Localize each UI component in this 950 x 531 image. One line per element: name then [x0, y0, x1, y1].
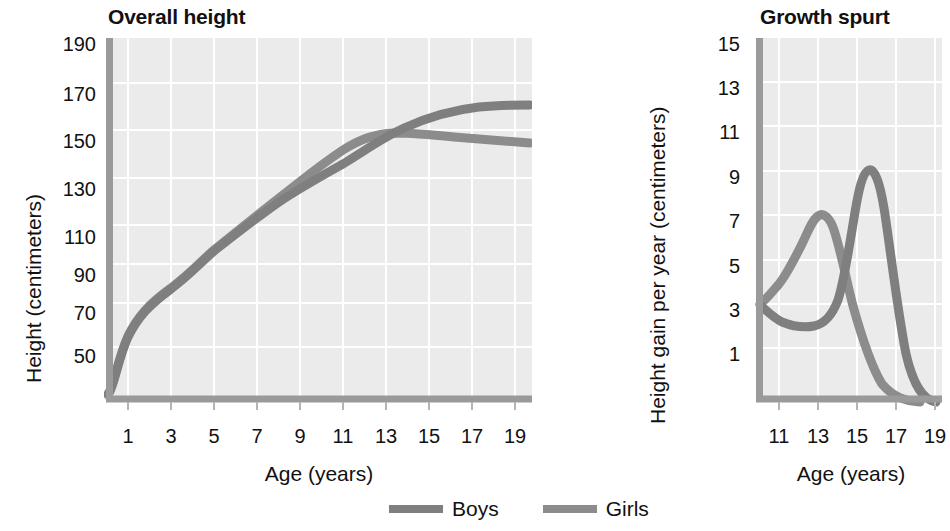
- panel-title-overall-height: Overall height: [108, 5, 245, 29]
- x-tick-label: 9: [280, 425, 320, 448]
- x-tick-label: 13: [366, 425, 406, 448]
- x-tick-label: 15: [837, 425, 877, 448]
- x-tick-label: 11: [323, 425, 363, 448]
- legend-item-boys: Boys: [389, 497, 499, 521]
- y-tick-label: 90: [26, 264, 96, 287]
- plot-area-growth-spurt: [754, 38, 942, 410]
- x-tick-label: 11: [759, 425, 799, 448]
- legend-swatch-boys: [389, 505, 443, 513]
- y-tick-label: 150: [26, 130, 96, 153]
- legend-swatch-girls: [543, 505, 597, 513]
- x-tick-label: 17: [876, 425, 916, 448]
- y-tick-label: 1: [696, 343, 740, 366]
- x-tick-label: 3: [151, 425, 191, 448]
- y-tick-label: 3: [696, 299, 740, 322]
- legend-label-girls: Girls: [606, 497, 649, 521]
- x-axis-label-right: Age (years): [756, 462, 946, 486]
- y-tick-label: 50: [26, 345, 96, 368]
- y-axis-label-right: Height gain per year (centimeters): [646, 107, 670, 424]
- y-tick-label: 11: [696, 121, 740, 144]
- y-tick-label: 7: [696, 210, 740, 233]
- y-tick-label: 130: [26, 178, 96, 201]
- legend-item-girls: Girls: [543, 497, 649, 521]
- x-tick-label: 7: [237, 425, 277, 448]
- y-tick-label: 5: [696, 255, 740, 278]
- x-tick-label: 19: [495, 425, 535, 448]
- x-tick-label: 15: [409, 425, 449, 448]
- x-tick-label: 17: [452, 425, 492, 448]
- x-tick-label: 5: [194, 425, 234, 448]
- x-axis-label-left: Age (years): [224, 462, 414, 486]
- legend: Boys Girls: [389, 497, 649, 521]
- plot-area-overall-height: [104, 38, 532, 410]
- y-tick-label: 15: [696, 33, 740, 56]
- x-tick-marks-left: [128, 402, 515, 410]
- y-tick-label: 9: [696, 166, 740, 189]
- y-tick-label: 190: [26, 33, 96, 56]
- panel-title-growth-spurt: Growth spurt: [760, 5, 889, 29]
- y-tick-label: 170: [26, 83, 96, 106]
- x-tick-label: 19: [915, 425, 950, 448]
- y-tick-label: 110: [26, 226, 96, 249]
- legend-label-boys: Boys: [452, 497, 499, 521]
- x-tick-label: 13: [798, 425, 838, 448]
- y-tick-label: 70: [26, 302, 96, 325]
- panel-growth-spurt: Growth spurt Height gain per year (centi…: [620, 0, 942, 500]
- y-tick-label: 13: [696, 77, 740, 100]
- x-tick-label: 1: [108, 425, 148, 448]
- panel-overall-height: Overall height Height (centimeters) 190 …: [0, 0, 620, 500]
